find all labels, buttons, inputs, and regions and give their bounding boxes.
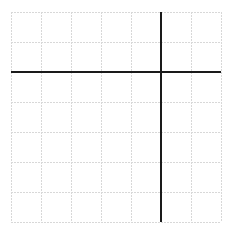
grid-lines (11, 12, 222, 223)
coordinate-grid (0, 0, 234, 242)
